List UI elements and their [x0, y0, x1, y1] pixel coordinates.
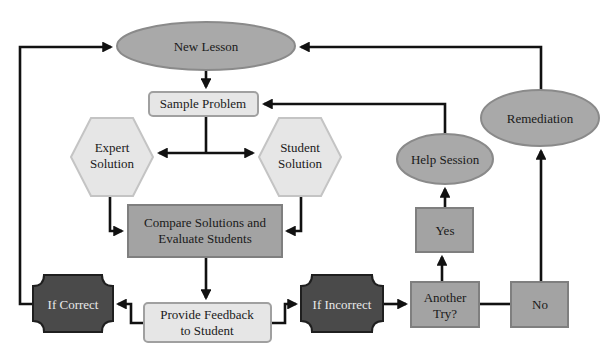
node-label: If Correct — [48, 297, 99, 312]
edge-feedback-to-ifincorrect — [271, 304, 296, 323]
node-label-line1: Student — [280, 140, 320, 155]
node-label: No — [532, 297, 548, 312]
node-help-session: Help Session — [397, 134, 493, 184]
edge-feedback-to-ifcorrect — [118, 304, 144, 323]
node-label-line1: Another — [424, 290, 467, 305]
node-label-line2: Evaluate Students — [158, 231, 252, 246]
node-label: Help Session — [411, 152, 480, 167]
node-label: Remediation — [507, 111, 574, 126]
edge-student-to-compare — [287, 196, 301, 231]
node-label: New Lesson — [174, 39, 239, 54]
node-sample-problem: Sample Problem — [149, 92, 258, 116]
node-label-line1: Provide Feedback — [160, 307, 254, 322]
node-label-line2: Solution — [90, 156, 135, 171]
node-label: Yes — [436, 223, 455, 238]
node-label: Sample Problem — [160, 96, 246, 111]
node-student-solution: Student Solution — [259, 118, 341, 196]
learning-flowchart: New Lesson Sample Problem Expert Solutio… — [0, 0, 616, 359]
edge-expert-to-compare — [110, 196, 122, 231]
node-label-line2: Solution — [278, 156, 323, 171]
node-label-line1: Compare Solutions and — [144, 215, 267, 230]
edge-remediation-to-newlesson — [301, 47, 541, 90]
node-label-line2: to Student — [180, 323, 233, 338]
node-label-line2: Try? — [433, 306, 457, 321]
node-yes: Yes — [416, 208, 473, 252]
node-compare-solutions: Compare Solutions and Evaluate Students — [128, 205, 282, 257]
node-remediation: Remediation — [481, 90, 599, 146]
node-provide-feedback: Provide Feedback to Student — [144, 303, 271, 342]
node-no: No — [511, 282, 568, 327]
node-label: If Incorrect — [313, 297, 372, 312]
node-expert-solution: Expert Solution — [71, 118, 153, 196]
node-if-correct: If Correct — [33, 275, 113, 332]
node-new-lesson: New Lesson — [117, 22, 295, 70]
node-another-try: Another Try? — [411, 282, 479, 327]
node-label-line1: Expert — [95, 140, 130, 155]
node-if-incorrect: If Incorrect — [301, 275, 383, 332]
